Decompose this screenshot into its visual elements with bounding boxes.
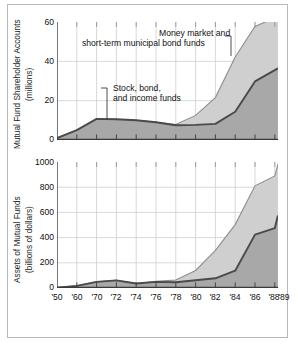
- top-ytick-20: 20: [30, 96, 54, 105]
- bottom-ytick-0: 0: [20, 283, 54, 292]
- xtick-label-89: '89: [274, 293, 294, 302]
- xtick-label-50: '50: [47, 293, 67, 302]
- top-ytick-60: 60: [30, 18, 54, 27]
- mutual-fund-chart-figure: Mutual Fund Shareholder Accounts (millio…: [0, 0, 298, 351]
- xtick-label-84: '84: [225, 293, 245, 302]
- bottom-ytick-400: 400: [20, 233, 54, 242]
- stock-bond-annotation-line2: and income funds: [113, 93, 181, 104]
- top-ytick-40: 40: [30, 57, 54, 66]
- xtick-label-72: '72: [106, 293, 126, 302]
- xtick-label-80: '80: [186, 293, 206, 302]
- xtick-label-78: '78: [166, 293, 186, 302]
- xtick-label-74: '74: [126, 293, 146, 302]
- top-panel-y-axis-title: Mutual Fund Shareholder Accounts: [12, 14, 23, 154]
- bottom-ytick-600: 600: [20, 208, 54, 217]
- stock-bond-annotation-line1: Stock, bond,: [113, 83, 161, 94]
- money-market-annotation-line2: short-term municipal bond funds: [82, 38, 205, 49]
- xtick-label-60: '60: [67, 293, 87, 302]
- bottom-ytick-1000: 1000: [20, 158, 54, 167]
- xtick-label-82: '82: [205, 293, 225, 302]
- money-market-annotation-line1: Money market and: [159, 28, 230, 39]
- xtick-label-70: '70: [87, 293, 107, 302]
- bottom-ytick-800: 800: [20, 183, 54, 192]
- xtick-label-76: '76: [146, 293, 166, 302]
- top-panel-y-axis-subtitle: (millions): [24, 44, 35, 124]
- bottom-panel-plot: [57, 162, 278, 288]
- bottom-ytick-200: 200: [20, 258, 54, 267]
- xtick-label-86: '86: [245, 293, 265, 302]
- top-ytick-0: 0: [30, 135, 54, 144]
